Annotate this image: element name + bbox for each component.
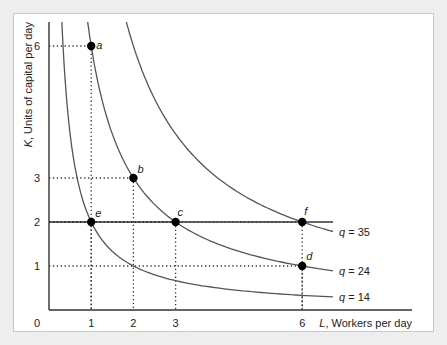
point-label-d: d (306, 250, 313, 262)
point-e (87, 218, 95, 226)
isoquant-q35 (126, 22, 333, 232)
origin-label: 0 (34, 317, 40, 329)
point-c (171, 218, 179, 226)
y-tick-label: 2 (34, 216, 40, 228)
point-a (87, 42, 95, 50)
isoquant-label-q14: q = 14 (339, 291, 370, 303)
isoquant-chart: q = 14q = 24q = 35123612360L, Workers pe… (0, 0, 447, 345)
x-axis-title: L, Workers per day (319, 317, 412, 329)
y-axis-title: K, Units of capital per day (22, 22, 34, 148)
points (87, 42, 306, 270)
point-label-e: e (95, 207, 101, 219)
isoquant-q24 (88, 22, 333, 271)
isoquant-label-value: = 14 (345, 291, 370, 303)
point-d (298, 262, 306, 270)
y-axis-rest: , Units of capital per day (22, 22, 34, 141)
x-tick-label: 3 (173, 317, 179, 329)
point-b (129, 174, 137, 182)
x-axis-rest: , Workers per day (325, 317, 412, 329)
isoquant-curves (62, 22, 333, 297)
isoquant-label-value: = 24 (345, 265, 370, 277)
point-label-a: a (96, 39, 102, 51)
labels: q = 14q = 24q = 35123612360L, Workers pe… (22, 22, 412, 329)
isoquant-label-q24: q = 24 (339, 265, 370, 277)
point-f (298, 218, 306, 226)
y-tick-label: 6 (34, 40, 40, 52)
isoquant-label-value: = 35 (345, 226, 370, 238)
point-label-b: b (137, 163, 143, 175)
dotted-guides (49, 46, 302, 310)
x-tick-label: 2 (130, 317, 136, 329)
isoquant-label-q35: q = 35 (339, 226, 370, 238)
y-tick-label: 1 (34, 260, 40, 272)
x-tick-label: 1 (88, 317, 94, 329)
y-tick-label: 3 (34, 172, 40, 184)
point-label-c: c (178, 206, 184, 218)
x-tick-label: 6 (299, 317, 305, 329)
point-label-f: f (304, 205, 308, 217)
